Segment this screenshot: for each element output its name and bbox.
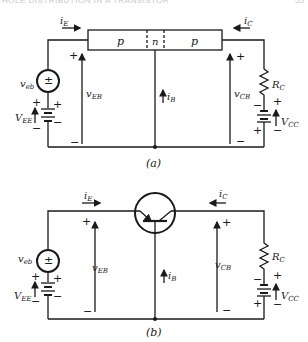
minus-sign: − (273, 124, 282, 137)
label-veb-source: veb (20, 78, 35, 91)
battery-vcc (257, 111, 271, 122)
collector-lead (159, 211, 171, 221)
label-ic: iC (244, 15, 253, 28)
plus-sign: + (82, 215, 91, 228)
label-rc-b: RC (271, 251, 286, 264)
label-rc: RC (271, 79, 286, 92)
label-ib: iB (167, 91, 175, 104)
minus-sign: − (53, 290, 62, 303)
label-ie: iE (60, 15, 68, 28)
region-p-collector: p (191, 35, 198, 48)
minus-sign: − (253, 273, 262, 286)
label-veb: vEB (86, 88, 102, 101)
plus-sign: + (53, 98, 62, 111)
minus-sign: − (53, 116, 62, 129)
label-vcc-b: VCC (281, 290, 300, 303)
plus-sign: + (253, 297, 262, 310)
plus-sign: + (69, 49, 78, 62)
node-dot-a (153, 145, 157, 149)
resistor-rc (260, 66, 268, 98)
plus-sign: + (32, 96, 41, 109)
transistor-circuit-figure: p n p iE iC vEB vCB iB veb VEE VCC RC ± … (0, 0, 308, 342)
minus-sign: − (236, 135, 245, 148)
node-dot-b (153, 317, 157, 321)
plus-sign: + (53, 272, 62, 285)
plus-sign: + (31, 270, 40, 283)
caption-a: (a) (146, 157, 161, 170)
plus-sign: + (273, 95, 282, 108)
label-vee: VEE (15, 112, 32, 125)
minus-sign: − (83, 305, 92, 318)
plus-sign: + (222, 216, 231, 229)
source-sign-a: ± (44, 74, 53, 87)
battery-vcc-b (257, 285, 271, 296)
label-vcb: vCB (234, 88, 250, 101)
emitter-lead (140, 211, 151, 221)
minus-sign: − (31, 295, 40, 308)
circuit-b (35, 193, 276, 319)
label-ie-b: iE (84, 190, 92, 203)
caption-b: (b) (146, 326, 162, 339)
region-p-emitter: p (117, 35, 124, 48)
plus-sign: + (236, 50, 245, 63)
label-ib-b: iB (168, 270, 176, 283)
plus-sign: + (273, 269, 282, 282)
minus-sign: − (70, 136, 79, 149)
plus-sign: + (253, 124, 262, 137)
minus-sign: − (253, 99, 262, 112)
minus-sign: − (273, 298, 282, 311)
region-n-base: n (152, 36, 158, 47)
minus-sign: − (222, 304, 231, 317)
minus-sign: − (32, 122, 41, 135)
source-sign-b: ± (44, 254, 53, 267)
resistor-rc-b (260, 240, 268, 272)
label-ic-b: iC (219, 188, 228, 201)
label-vcc: VCC (281, 116, 300, 129)
label-vee-b: VEE (14, 290, 31, 303)
label-veb-source-b: veb (18, 253, 33, 266)
